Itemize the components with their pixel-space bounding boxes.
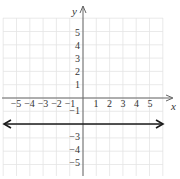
- y-tick-label: 5: [75, 27, 80, 38]
- coordinate-plane: x y −5 −4 −3 −2 −1 1 2 3 4 5 5 4 3 2 1 −…: [0, 0, 180, 179]
- y-tick-label: 3: [75, 53, 80, 64]
- y-tick-label: 4: [75, 40, 80, 51]
- y-tick-label: −5: [69, 157, 80, 168]
- y-tick-label: −1: [69, 105, 80, 116]
- x-tick-label: 2: [107, 98, 112, 109]
- x-tick-label: −4: [24, 98, 35, 109]
- y-tick-label: 1: [75, 79, 80, 90]
- y-tick-label: −4: [69, 144, 80, 155]
- y-tick-label: −3: [69, 131, 80, 142]
- x-tick-label: −2: [51, 98, 62, 109]
- x-axis-label: x: [170, 100, 176, 112]
- x-tick-label: 4: [134, 98, 139, 109]
- x-tick-label: −5: [11, 98, 22, 109]
- y-tick-label: 2: [75, 66, 80, 77]
- x-tick-label: 5: [148, 98, 153, 109]
- y-axis-label: y: [71, 5, 77, 17]
- x-tick-label: 3: [121, 98, 126, 109]
- x-tick-label: −3: [38, 98, 49, 109]
- x-tick-label: 1: [94, 98, 99, 109]
